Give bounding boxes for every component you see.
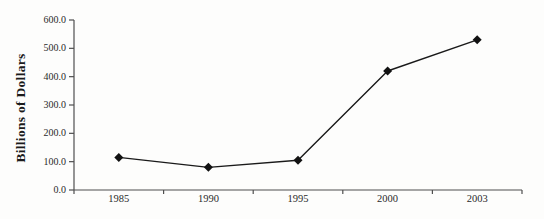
- x-tick-label: 1990: [198, 193, 219, 204]
- y-tick-label: 0.0: [0, 184, 66, 196]
- plot-area: [0, 0, 544, 219]
- data-point-marker: [114, 153, 123, 162]
- line-chart-figure: Billions of Dollars 0.0100.0200.0300.040…: [0, 0, 544, 219]
- y-tick-label: 300.0: [0, 99, 66, 111]
- y-tick-label: 600.0: [0, 14, 66, 26]
- data-point-marker: [204, 163, 213, 172]
- data-line: [119, 40, 477, 168]
- y-tick-label: 100.0: [0, 156, 66, 168]
- y-tick-label: 200.0: [0, 127, 66, 139]
- x-tick-label: 2003: [467, 193, 488, 204]
- x-tick-label: 1995: [288, 193, 309, 204]
- y-tick-label: 400.0: [0, 71, 66, 83]
- x-tick-label: 1985: [108, 193, 129, 204]
- y-tick-label: 500.0: [0, 42, 66, 54]
- x-tick-label: 2000: [377, 193, 398, 204]
- data-point-marker: [473, 35, 482, 44]
